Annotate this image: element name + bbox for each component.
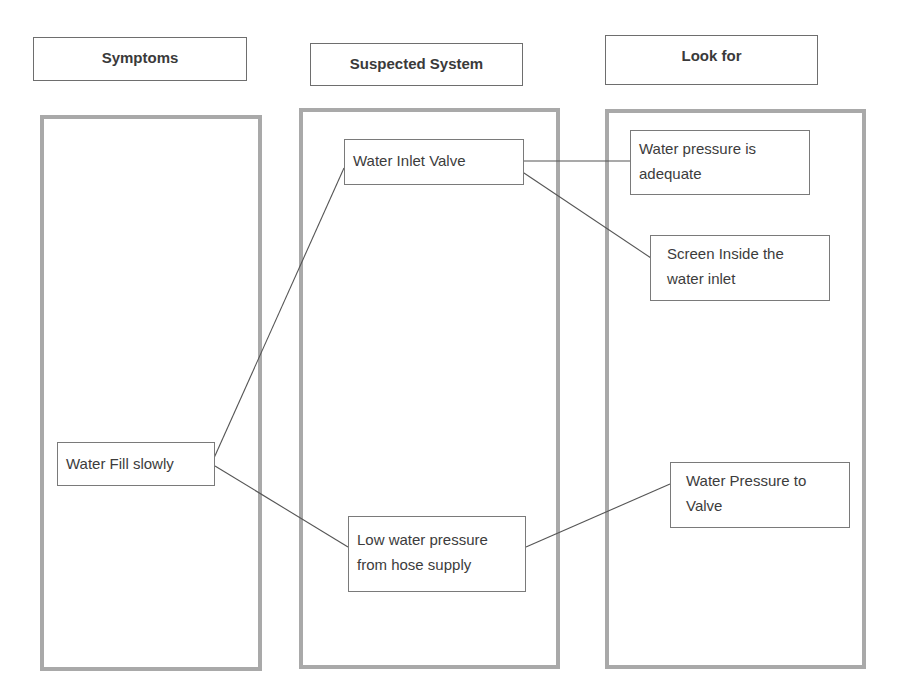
node-water-fill-slowly-label: Water Fill slowly	[66, 455, 174, 472]
header-suspected-system-label: Suspected System	[350, 55, 483, 72]
node-water-pressure-adequate: Water pressure is adequate	[630, 130, 810, 195]
node-water-pressure-to-valve-label: Water Pressure to Valve	[686, 472, 806, 514]
node-screen-inside-inlet: Screen Inside the water inlet	[650, 235, 830, 301]
header-look-for-label: Look for	[682, 47, 742, 64]
header-look-for: Look for	[605, 35, 818, 85]
node-low-water-pressure-label: Low water pressure from hose supply	[357, 531, 488, 573]
node-water-fill-slowly: Water Fill slowly	[57, 442, 215, 486]
node-screen-inside-inlet-label: Screen Inside the water inlet	[667, 245, 784, 287]
node-water-pressure-to-valve: Water Pressure to Valve	[670, 462, 850, 528]
node-water-inlet-valve: Water Inlet Valve	[344, 139, 524, 185]
header-suspected-system: Suspected System	[310, 43, 523, 86]
header-symptoms-label: Symptoms	[102, 49, 179, 66]
node-low-water-pressure: Low water pressure from hose supply	[348, 516, 526, 592]
header-symptoms: Symptoms	[33, 37, 247, 81]
node-water-pressure-adequate-label: Water pressure is adequate	[639, 140, 756, 182]
column-symptoms	[40, 115, 262, 671]
node-water-inlet-valve-label: Water Inlet Valve	[353, 152, 466, 169]
